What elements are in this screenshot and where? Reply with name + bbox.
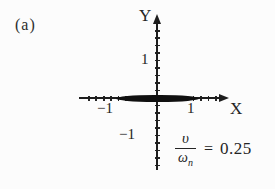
phase-plane-figure: (a) Y X 1 −1 −1 1 υ ωn = 0.25: [0, 0, 275, 189]
x-axis-tick-label-positive: 1: [187, 100, 195, 117]
formula-denominator-subscript: n: [188, 156, 193, 167]
formula-annotation: υ ωn = 0.25: [174, 130, 252, 168]
formula-equals-sign: =: [204, 140, 213, 158]
x-axis-label: X: [230, 99, 242, 119]
y-axis-tick-label-positive: 1: [141, 51, 149, 68]
y-axis-tick-label-negative: −1: [119, 126, 135, 143]
panel-label: (a): [15, 16, 36, 34]
y-axis-label: Y: [139, 6, 151, 26]
formula-value: 0.25: [220, 139, 252, 159]
formula-denominator: ωn: [175, 148, 196, 169]
trajectory-ellipse: [116, 95, 199, 103]
x-axis-tick-label-negative: −1: [97, 100, 113, 117]
formula-numerator: υ: [174, 130, 197, 148]
x-axis-arrowhead-icon: [219, 94, 229, 102]
formula-denominator-base: ω: [178, 150, 188, 165]
formula-fraction: υ ωn: [174, 130, 197, 168]
y-axis-arrowhead-icon: [153, 14, 161, 24]
